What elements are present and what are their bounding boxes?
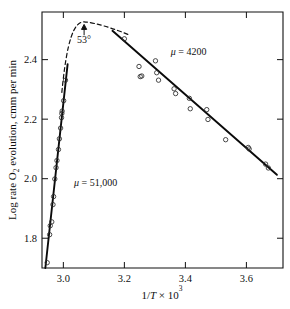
x-tick-label: 3.0 — [57, 273, 70, 284]
mu-low-annotation: μ = 51,000 — [73, 177, 117, 188]
x-tick-label: 3.4 — [179, 273, 193, 284]
y-tick-label: 2.0 — [24, 173, 37, 184]
x-tick-label: 3.6 — [240, 273, 253, 284]
peak-temperature-annotation: 53° — [77, 34, 91, 45]
y-tick-label: 2.2 — [24, 114, 37, 125]
scatter-plot: 3.03.23.43.6 1.82.02.22.4 53°μ = 4200μ =… — [0, 0, 290, 309]
y-tick-label: 2.4 — [24, 54, 38, 65]
figure-container: 3.03.23.43.6 1.82.02.22.4 53°μ = 4200μ =… — [0, 0, 290, 309]
mu-high-annotation: μ = 4200 — [170, 46, 207, 57]
x-tick-label: 3.2 — [118, 273, 131, 284]
y-tick-label: 1.8 — [24, 233, 37, 244]
